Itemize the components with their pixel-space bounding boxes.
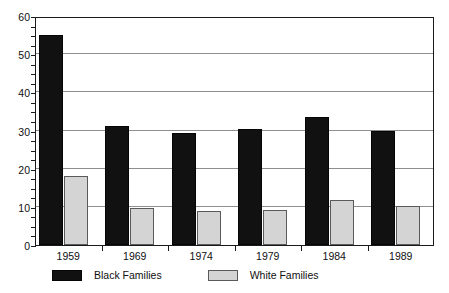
bar-chart-figure: 0102030405060 195919691974197919841989 B… [0, 0, 449, 293]
x-tick-label-1984: 1984 [323, 251, 346, 262]
bar-1984-white-families [330, 200, 354, 245]
y-tick-label-20: 20 [0, 164, 30, 175]
gridline-40 [36, 91, 433, 92]
bar-1984-black-families [305, 117, 329, 245]
bar-1974-white-families [197, 211, 221, 245]
bar-1989-black-families [371, 131, 395, 246]
legend-entry-white-families: White Families [208, 270, 319, 281]
y-tick-label-30: 30 [0, 126, 30, 137]
chart-legend: Black FamiliesWhite Families [52, 266, 365, 284]
y-tick-label-10: 10 [0, 203, 30, 214]
y-axis: 0102030405060 [0, 17, 30, 246]
plot-area [35, 17, 434, 246]
x-tick-label-1969: 1969 [123, 251, 146, 262]
x-tick-label-1979: 1979 [256, 251, 279, 262]
bar-1969-black-families [105, 126, 129, 245]
bar-1989-white-families [396, 206, 420, 245]
y-tick-label-60: 60 [0, 12, 30, 23]
bar-1979-black-families [238, 129, 262, 245]
y-tick-label-0: 0 [0, 241, 30, 252]
y-tick-label-50: 50 [0, 50, 30, 61]
legend-label: Black Families [94, 270, 162, 281]
bar-1979-white-families [263, 210, 287, 245]
x-tick-label-1959: 1959 [57, 251, 80, 262]
x-axis: 195919691974197919841989 [35, 251, 434, 267]
bar-1969-white-families [130, 208, 154, 245]
bar-1974-black-families [172, 133, 196, 245]
white-swatch-icon [208, 270, 238, 281]
legend-label: White Families [250, 270, 319, 281]
black-swatch-icon [52, 270, 82, 281]
x-tick-label-1974: 1974 [190, 251, 213, 262]
legend-entry-black-families: Black Families [52, 270, 162, 281]
x-tick-label-1989: 1989 [389, 251, 412, 262]
gridline-50 [36, 53, 433, 54]
bar-1959-black-families [39, 35, 63, 245]
bar-1959-white-families [64, 176, 88, 245]
y-tick-label-40: 40 [0, 88, 30, 99]
